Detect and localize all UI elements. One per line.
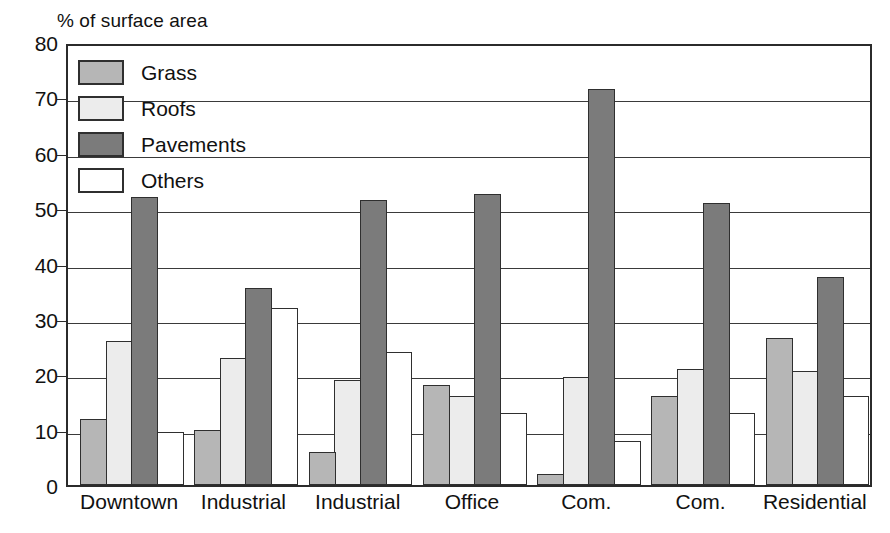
- legend-swatch-others-icon: [78, 168, 124, 193]
- bar-pavements-5: [703, 203, 730, 485]
- y-tick-label: 20: [6, 365, 58, 386]
- bar-roofs-3: [448, 396, 475, 485]
- x-axis-label-0: Downtown: [80, 489, 178, 515]
- bar-pavements-6: [817, 277, 844, 485]
- bar-grass-5: [651, 396, 678, 485]
- chart-legend: GrassRoofsPavementsOthers: [78, 56, 338, 200]
- bar-roofs-4: [563, 377, 590, 485]
- bar-others-3: [500, 413, 527, 485]
- bar-roofs-6: [791, 371, 818, 485]
- y-tick-label: 80: [6, 33, 58, 54]
- bar-grass-3: [423, 385, 450, 485]
- bar-pavements-4: [588, 89, 615, 485]
- bar-pavements-2: [360, 200, 387, 485]
- bar-grass-2: [309, 452, 336, 485]
- chart-title: % of surface area: [57, 9, 208, 33]
- bar-others-0: [157, 432, 184, 485]
- x-axis-label-2: Industrial: [315, 489, 400, 515]
- legend-item-others: Others: [78, 164, 338, 197]
- legend-item-grass: Grass: [78, 56, 338, 89]
- bar-pavements-3: [474, 194, 501, 485]
- x-axis-label-5: Com.: [675, 489, 725, 515]
- bar-others-4: [614, 441, 641, 485]
- bar-roofs-1: [220, 358, 247, 485]
- x-axis-label-1: Industrial: [201, 489, 286, 515]
- legend-swatch-roofs-icon: [78, 96, 124, 121]
- x-axis-label-4: Com.: [561, 489, 611, 515]
- bar-chart-figure: % of surface area 01020304050607080 Down…: [0, 0, 890, 533]
- x-axis-label-6: Residential: [763, 489, 867, 515]
- legend-swatch-pavements-icon: [78, 132, 124, 157]
- bar-roofs-5: [677, 369, 704, 485]
- bar-grass-4: [537, 474, 564, 485]
- legend-label: Pavements: [141, 134, 246, 155]
- legend-label: Grass: [141, 62, 197, 83]
- x-axis-label-3: Office: [445, 489, 499, 515]
- bar-others-2: [385, 352, 412, 485]
- bar-grass-0: [80, 419, 107, 485]
- bar-roofs-2: [334, 380, 361, 485]
- y-tick-label: 30: [6, 310, 58, 331]
- bar-pavements-0: [131, 197, 158, 485]
- bar-others-5: [728, 413, 755, 485]
- legend-label: Others: [141, 170, 204, 191]
- y-tick-label: 60: [6, 144, 58, 165]
- bar-pavements-1: [245, 288, 272, 485]
- legend-swatch-grass-icon: [78, 60, 124, 85]
- y-tick-label: 10: [6, 421, 58, 442]
- y-tick-label: 0: [6, 476, 58, 497]
- bar-roofs-0: [106, 341, 133, 485]
- y-tick-label: 40: [6, 255, 58, 276]
- y-tick-label: 50: [6, 199, 58, 220]
- bar-grass-1: [194, 430, 221, 485]
- bar-grass-6: [766, 338, 793, 485]
- legend-item-roofs: Roofs: [78, 92, 338, 125]
- bar-others-6: [842, 396, 869, 485]
- x-axis-labels: DowntownIndustrialIndustrialOfficeCom.Co…: [66, 489, 872, 529]
- bar-others-1: [271, 308, 298, 485]
- y-tick-label: 70: [6, 88, 58, 109]
- legend-item-pavements: Pavements: [78, 128, 338, 161]
- legend-label: Roofs: [141, 98, 196, 119]
